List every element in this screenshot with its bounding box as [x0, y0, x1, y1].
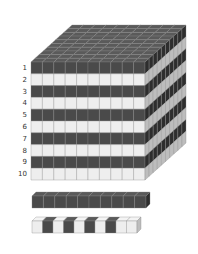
cube-front-cell — [65, 74, 76, 86]
cube-front-cell — [99, 133, 110, 145]
cube-front-cell — [42, 97, 53, 109]
rod-dark-front — [123, 196, 134, 208]
rod-striped-front — [85, 221, 96, 233]
rod-striped-front — [106, 221, 117, 233]
cube-front-cell — [122, 109, 133, 121]
cube-front-cell — [122, 156, 133, 168]
cube-front-cell — [54, 145, 65, 157]
row-label: 4 — [7, 99, 27, 107]
cube-front-cell — [111, 97, 122, 109]
thousand-cube — [0, 0, 198, 254]
cube-front-cell — [65, 86, 76, 98]
cube-front-cell — [54, 133, 65, 145]
cube-front-cell — [122, 168, 133, 180]
cube-front-cell — [65, 62, 76, 74]
cube-front-cell — [88, 97, 99, 109]
cube-front-cell — [77, 168, 88, 180]
rod-dark-front — [135, 196, 146, 208]
row-label: 7 — [7, 135, 27, 143]
cube-front-cell — [88, 86, 99, 98]
cube-front-cell — [31, 168, 42, 180]
cube-front-cell — [42, 74, 53, 86]
cube-front-cell — [99, 62, 110, 74]
row-label: 8 — [7, 147, 27, 155]
cube-front-cell — [111, 145, 122, 157]
row-label: 10 — [7, 170, 27, 178]
cube-front-cell — [77, 74, 88, 86]
rod-striped-front — [116, 221, 127, 233]
cube-front-cell — [65, 145, 76, 157]
cube-front-cell — [99, 121, 110, 133]
cube-front-cell — [88, 109, 99, 121]
row-label: 9 — [7, 158, 27, 166]
cube-front-cell — [42, 156, 53, 168]
cube-front-cell — [122, 133, 133, 145]
cube-front-cell — [42, 109, 53, 121]
cube-front-cell — [122, 121, 133, 133]
cube-front-cell — [122, 86, 133, 98]
base-ten-diagram: 12345678910 — [0, 0, 198, 254]
rod-striped-front — [43, 221, 54, 233]
cube-front-cell — [111, 74, 122, 86]
cube-front-cell — [99, 168, 110, 180]
cube-front-cell — [88, 168, 99, 180]
cube-front-cell — [65, 168, 76, 180]
cube-front-cell — [122, 145, 133, 157]
rod-striped-front — [53, 221, 64, 233]
row-label: 6 — [7, 123, 27, 131]
cube-front-cell — [111, 109, 122, 121]
cube-front-cell — [99, 109, 110, 121]
cube-front-cell — [42, 86, 53, 98]
cube-front-cell — [111, 168, 122, 180]
rod-striped-front — [32, 221, 43, 233]
rod-dark-front — [43, 196, 54, 208]
rod-striped-front — [127, 221, 138, 233]
cube-front-cell — [54, 121, 65, 133]
cube-front-cell — [99, 145, 110, 157]
cube-front-cell — [111, 156, 122, 168]
cube-front-cell — [134, 86, 145, 98]
rod-striped-front — [64, 221, 75, 233]
cube-front-cell — [134, 121, 145, 133]
cube-front-cell — [134, 168, 145, 180]
cube-front-cell — [99, 74, 110, 86]
cube-front-cell — [111, 133, 122, 145]
cube-front-cell — [77, 86, 88, 98]
rod-striped-front — [95, 221, 106, 233]
cube-front-cell — [99, 86, 110, 98]
cube-front-cell — [111, 86, 122, 98]
row-label: 5 — [7, 111, 27, 119]
cube-front-cell — [99, 97, 110, 109]
cube-front-cell — [42, 168, 53, 180]
rod-striped-front — [74, 221, 85, 233]
cube-front-cell — [42, 145, 53, 157]
cube-front-cell — [134, 156, 145, 168]
cube-front-cell — [134, 74, 145, 86]
cube-front-cell — [77, 97, 88, 109]
rod-dark-front — [66, 196, 77, 208]
cube-front-cell — [88, 74, 99, 86]
cube-front-cell — [134, 62, 145, 74]
cube-front-cell — [77, 133, 88, 145]
cube-front-cell — [111, 62, 122, 74]
rod-dark-front — [100, 196, 111, 208]
cube-front-cell — [54, 62, 65, 74]
cube-front-cell — [31, 97, 42, 109]
cube-front-cell — [134, 133, 145, 145]
cube-front-cell — [88, 62, 99, 74]
cube-front-cell — [31, 62, 42, 74]
cube-front-cell — [31, 145, 42, 157]
cube-front-cell — [54, 168, 65, 180]
cube-front-cell — [65, 133, 76, 145]
cube-front-cell — [134, 97, 145, 109]
cube-front-cell — [77, 145, 88, 157]
rod-dark-front — [32, 196, 43, 208]
cube-front-cell — [42, 62, 53, 74]
cube-front-cell — [65, 156, 76, 168]
cube-front-cell — [134, 145, 145, 157]
cube-front-cell — [54, 109, 65, 121]
cube-front-cell — [88, 133, 99, 145]
row-label: 3 — [7, 88, 27, 96]
cube-front-cell — [54, 74, 65, 86]
cube-front-cell — [77, 109, 88, 121]
